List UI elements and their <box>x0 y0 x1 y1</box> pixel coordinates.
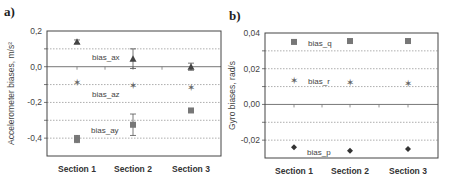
y-tick-label: 0,00 <box>243 99 260 109</box>
series-annotation: bias_r <box>308 77 330 86</box>
panel-label: a) <box>4 4 15 19</box>
plot-frame <box>47 31 221 156</box>
data-point-star-icon: ✶ <box>129 80 137 91</box>
data-point-diamond-icon <box>347 148 353 154</box>
x-category-label: Section 1 <box>58 164 96 174</box>
plot-frame <box>265 33 438 158</box>
series-annotation: bias_az <box>92 90 120 99</box>
y-tick-label: 0,2 <box>30 26 42 36</box>
data-point-square-icon <box>74 136 80 142</box>
series-annotation: bias_ay <box>91 126 119 135</box>
data-point-triangle-icon <box>74 38 81 45</box>
series-annotation: bias_p <box>307 148 331 157</box>
y-axis-label: Gyro biases, rad/s <box>227 61 237 130</box>
data-point-square-icon <box>291 39 297 45</box>
data-point-star-icon: ✶ <box>73 77 81 88</box>
x-category-label: Section 2 <box>331 166 369 176</box>
y-axis-label: Accelerometer biases, m/s² <box>6 42 16 145</box>
data-point-star-icon: ✶ <box>346 77 354 88</box>
data-point-star-icon: ✶ <box>404 78 412 89</box>
series-bias-ay: bias_ay <box>74 107 194 142</box>
x-category-label: Section 2 <box>114 164 152 174</box>
data-point-star-icon: ✶ <box>290 75 298 86</box>
x-category-label: Section 3 <box>172 164 210 174</box>
data-point-triangle-icon <box>130 55 137 62</box>
series-bias-q: bias_q <box>291 38 411 48</box>
series-bias-ax: bias_ax <box>74 38 195 70</box>
series-annotation: bias_q <box>308 39 332 48</box>
x-category-label: Section 1 <box>275 166 313 176</box>
series-bias-p: bias_p <box>291 144 411 157</box>
series-annotation: bias_ax <box>92 53 120 62</box>
data-point-star-icon: ✶ <box>187 82 195 93</box>
data-point-square-icon <box>347 38 353 44</box>
chart-figure: a)0,20,0-0,2-0,4Accelerometer biases, m/… <box>0 0 449 185</box>
data-point-diamond-icon <box>405 146 411 152</box>
data-point-square-icon <box>130 122 136 128</box>
y-tick-label: -0,4 <box>27 133 42 143</box>
data-point-square-icon <box>405 38 411 44</box>
y-tick-label: 0,0 <box>30 62 42 72</box>
series-bias-az: ✶✶✶bias_az <box>73 77 195 99</box>
y-tick-label: -0,02 <box>241 135 261 145</box>
chart-panel-b: b)0,040,020,00-0,02Gyro biases, rad/sSec… <box>227 8 438 176</box>
y-tick-label: 0,04 <box>243 28 260 38</box>
data-point-diamond-icon <box>291 144 297 150</box>
y-tick-label: 0,02 <box>243 64 260 74</box>
y-tick-label: -0,2 <box>27 97 42 107</box>
x-category-label: Section 3 <box>389 166 427 176</box>
panel-label: b) <box>229 8 241 23</box>
chart-panel-a: a)0,20,0-0,2-0,4Accelerometer biases, m/… <box>4 4 221 174</box>
data-point-square-icon <box>188 107 194 113</box>
